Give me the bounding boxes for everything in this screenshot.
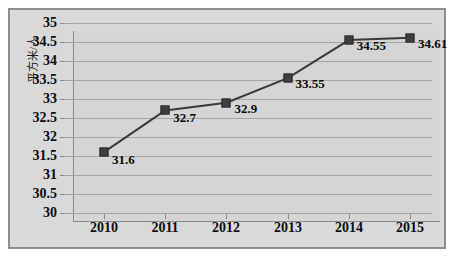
x-tick-label: 2015: [396, 221, 424, 235]
x-tick-label: 2013: [274, 221, 302, 235]
y-tick-label: 31.5: [10, 149, 57, 163]
gridline: [65, 194, 432, 195]
data-point-marker: [161, 106, 170, 115]
y-tick-mark: [60, 42, 65, 43]
y-tick-label: 34: [10, 54, 57, 68]
x-tick-mark: [226, 214, 227, 219]
data-point-label: 34.61: [418, 36, 447, 49]
gridline: [65, 80, 432, 81]
x-tick-mark: [410, 214, 411, 219]
data-point-label: 34.55: [357, 39, 386, 52]
data-point-marker: [283, 74, 292, 83]
y-tick-label: 32.5: [10, 111, 57, 125]
x-tick-label: 2010: [90, 221, 118, 235]
y-tick-mark: [60, 156, 65, 157]
y-tick-mark: [60, 23, 65, 24]
chart-figure: 平方米/人 3534.53433.53332.53231.53130.530 2…: [0, 0, 454, 257]
y-tick-mark: [60, 61, 65, 62]
y-tick-label: 33.5: [10, 73, 57, 87]
data-point-marker: [100, 148, 109, 157]
y-tick-label: 32: [10, 130, 57, 144]
gridline: [65, 61, 432, 62]
gridline: [65, 118, 432, 119]
y-tick-mark: [60, 137, 65, 138]
chart-frame: 平方米/人 3534.53433.53332.53231.53130.530 2…: [8, 8, 446, 249]
y-tick-mark: [60, 80, 65, 81]
x-axis-line: [73, 221, 440, 222]
plot-area: [73, 31, 440, 221]
data-point-label: 32.7: [173, 111, 196, 124]
gridline: [65, 175, 432, 176]
y-tick-mark: [60, 194, 65, 195]
x-tick-label: 2014: [335, 221, 363, 235]
gridline: [65, 137, 432, 138]
data-point-marker: [406, 33, 415, 42]
data-point-marker: [222, 98, 231, 107]
x-tick-mark: [165, 214, 166, 219]
y-tick-label: 33: [10, 92, 57, 106]
y-tick-label: 31: [10, 168, 57, 182]
y-tick-label: 30.5: [10, 187, 57, 201]
x-tick-label: 2011: [151, 221, 178, 235]
x-tick-label: 2012: [212, 221, 240, 235]
y-tick-label: 30: [10, 206, 57, 220]
x-tick-mark: [288, 214, 289, 219]
data-point-label: 32.9: [234, 101, 257, 114]
y-tick-mark: [60, 118, 65, 119]
y-tick-mark: [60, 213, 65, 214]
data-point-marker: [344, 36, 353, 45]
data-point-label: 31.6: [112, 153, 135, 166]
y-tick-mark: [60, 175, 65, 176]
y-tick-label: 35: [10, 16, 57, 30]
x-tick-mark: [104, 214, 105, 219]
y-tick-mark: [60, 99, 65, 100]
x-tick-mark: [349, 214, 350, 219]
gridline: [65, 213, 432, 214]
data-point-label: 33.55: [296, 77, 325, 90]
gridline: [65, 23, 432, 24]
y-tick-label: 34.5: [10, 35, 57, 49]
